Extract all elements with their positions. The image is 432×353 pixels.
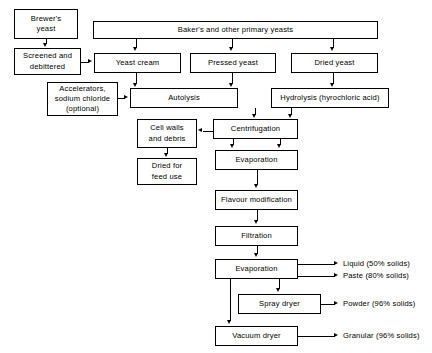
output-label-liquid: Liquid (50% solids): [343, 259, 410, 268]
arrowhead-spray-dryer-to-powder: [334, 301, 338, 305]
arrowhead-vacuum-dryer-to-granular: [334, 333, 338, 337]
arrowhead-centrifugation-to-cell-walls: [198, 128, 202, 132]
arrowhead-evaporation2-to-liquid: [334, 261, 338, 265]
node-pressed-yeast[interactable]: Pressed yeast: [190, 53, 276, 73]
arrowhead-centrifugation-to-evaporation-right: [277, 144, 281, 148]
arrowhead-bakers-to-dried-yeast: [330, 47, 334, 51]
node-bakers-and-other-primary-yeasts[interactable]: Baker's and other primary yeasts: [93, 21, 378, 39]
arrowhead-hydrolysis-to-centrifugation: [288, 114, 292, 118]
arrowhead-yeast-cream-to-autolysis: [133, 83, 137, 87]
node-dried-yeast[interactable]: Dried yeast: [291, 53, 378, 73]
output-label-powder: Powder (96% solids): [343, 299, 416, 308]
arrowhead-dried-yeast-to-hydrolysis: [330, 83, 334, 87]
arrowhead-screened-to-yeast-cream: [88, 59, 92, 63]
flowchart-canvas: Brewer's yeast Baker's and other primary…: [0, 0, 432, 353]
node-flavour-modification[interactable]: Flavour modification: [215, 190, 298, 210]
arrowhead-flavour-to-filtration: [254, 220, 258, 224]
edge-evaporation2-to-vacuum-dryer: [230, 279, 231, 321]
arrowhead-brewers-to-screened: [43, 43, 47, 47]
node-filtration[interactable]: Filtration: [215, 226, 298, 246]
node-autolysis[interactable]: Autolysis: [130, 88, 238, 108]
output-label-granular: Granular (96% solids): [343, 331, 420, 340]
arrowhead-pressed-yeast-to-autolysis: [229, 83, 233, 87]
node-yeast-cream[interactable]: Yeast cream: [94, 53, 181, 73]
arrowhead-bakers-to-yeast-cream: [133, 47, 137, 51]
edge-evaporation2-to-paste: [298, 276, 335, 277]
arrowhead-evaporation2-to-paste: [334, 273, 338, 277]
arrowhead-autolysis-to-centrifugation: [252, 114, 256, 118]
arrowhead-evaporation2-to-spray-dryer: [276, 288, 280, 292]
arrowhead-evaporation-to-flavour: [254, 184, 258, 188]
arrowhead-cell-walls-to-dried-feed: [164, 153, 168, 157]
node-vacuum-dryer[interactable]: Vacuum dryer: [215, 326, 298, 346]
node-brewers-yeast[interactable]: Brewer's yeast: [14, 9, 78, 39]
node-centrifugation[interactable]: Centrifugation: [213, 119, 298, 139]
arrowhead-filtration-to-evaporation2: [254, 253, 258, 257]
node-cell-walls-and-debris[interactable]: Cell walls and debris: [137, 119, 197, 148]
arrowhead-evaporation2-to-vacuum-dryer: [227, 320, 231, 324]
arrowhead-bakers-to-pressed-yeast: [229, 47, 233, 51]
node-accelerators-sodium-chloride[interactable]: Accelerators, sodium chloride (optional): [47, 82, 118, 116]
edge-spray-dryer-to-powder: [321, 304, 335, 305]
node-evaporation-first[interactable]: Evaporation: [215, 150, 298, 170]
node-dried-for-feed-use[interactable]: Dried for feed use: [137, 158, 197, 185]
output-label-paste: Paste (80% solids): [343, 271, 409, 280]
node-spray-dryer[interactable]: Spray dryer: [238, 294, 321, 314]
edge-evaporation2-to-liquid: [298, 264, 335, 265]
node-screened-and-debittered[interactable]: Screened and debittered: [14, 48, 81, 75]
edge-evaporation-to-flavour: [257, 170, 258, 185]
edge-centrifugation-to-cell-walls: [203, 131, 214, 132]
arrowhead-accelerators-to-autolysis: [124, 95, 128, 99]
edge-vacuum-dryer-to-granular: [298, 336, 335, 337]
arrowhead-centrifugation-to-evaporation-left: [230, 144, 234, 148]
node-hydrolysis[interactable]: Hydrolysis (hyrochloric acid): [271, 88, 389, 108]
node-evaporation-second[interactable]: Evaporation: [215, 259, 298, 279]
